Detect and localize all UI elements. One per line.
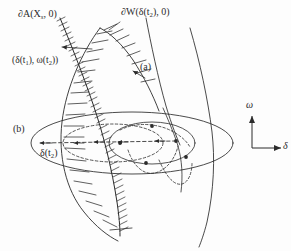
state-pair-label: (δ(t1), ω(t2)): [12, 56, 58, 66]
omega-axis-label: ω: [246, 100, 253, 110]
axis-indicator: [252, 116, 281, 148]
hatched-surface-boundary: [61, 28, 118, 241]
trajectory-b-label: (b): [13, 124, 25, 134]
trajectory-b-dashed-path: [40, 141, 176, 143]
boundary-A-label: ∂A(Xs, 0): [18, 9, 57, 20]
marker-dot: [118, 141, 122, 145]
marker-dot: [144, 161, 148, 165]
secondary-trajectory-curve: [163, 108, 182, 192]
inner-solid-ellipse: [109, 122, 195, 164]
trajectory-a-label: (a): [140, 62, 151, 72]
marker-dot: [150, 124, 154, 128]
marker-dot: [174, 139, 178, 143]
delta-t2-label: δ(t2): [40, 148, 58, 159]
cross-hatched-stability-boundary: [57, 17, 132, 236]
boundary-w-leader: [109, 22, 120, 30]
diagram-vector-layer: [0, 0, 291, 251]
marker-dot: [184, 155, 188, 159]
figure-canvas: ∂A(Xs, 0) ∂W(δ(t2), 0) (δ(t1), ω(t2)) (a…: [0, 0, 291, 251]
delta-axis-label: δ: [283, 141, 288, 151]
boundary-W-label: ∂W(δ(t2), 0): [121, 7, 170, 18]
